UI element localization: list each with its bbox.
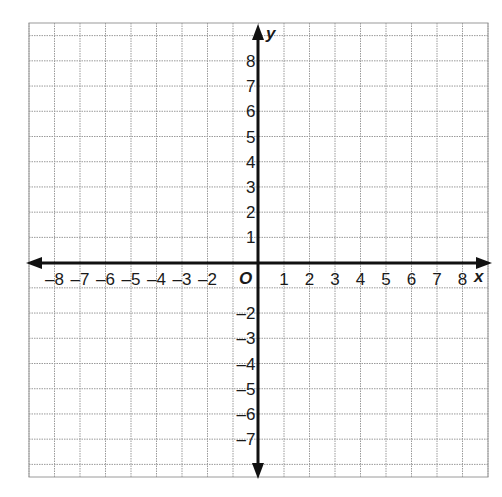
- y-tick-label: 8: [246, 52, 255, 71]
- x-tick-label: 4: [356, 270, 365, 289]
- x-tick-label: 7: [432, 270, 441, 289]
- x-tick-label: –4: [147, 270, 166, 289]
- tick-labels: –8–7–6–5–4–3–21234567887654321–2–3–4–5–6…: [45, 52, 467, 449]
- y-tick-label: –5: [237, 380, 256, 399]
- y-axis-up-arrow-icon: [252, 24, 264, 40]
- y-tick-label: 1: [246, 228, 255, 247]
- y-axis-label: y: [265, 24, 277, 43]
- x-tick-label: –6: [96, 270, 115, 289]
- x-tick-label: 1: [279, 270, 288, 289]
- axes: [26, 24, 492, 479]
- coordinate-plane: –8–7–6–5–4–3–21234567887654321–2–3–4–5–6…: [0, 0, 502, 497]
- x-tick-label: –5: [122, 270, 141, 289]
- y-tick-label: –2: [237, 304, 256, 323]
- x-axis-left-arrow-icon: [26, 257, 42, 269]
- x-axis-label: x: [473, 267, 485, 286]
- y-tick-label: 3: [246, 178, 255, 197]
- x-tick-label: –7: [71, 270, 90, 289]
- y-tick-label: 2: [246, 203, 255, 222]
- x-tick-label: 2: [305, 270, 314, 289]
- y-tick-label: –4: [237, 355, 256, 374]
- x-tick-label: –8: [45, 270, 64, 289]
- x-tick-label: 8: [458, 270, 467, 289]
- x-tick-label: 3: [330, 270, 339, 289]
- x-tick-label: –3: [173, 270, 192, 289]
- y-tick-label: –3: [237, 329, 256, 348]
- y-tick-label: 5: [246, 128, 255, 147]
- y-tick-label: 4: [246, 153, 255, 172]
- x-tick-label: 6: [407, 270, 416, 289]
- x-tick-label: 5: [381, 270, 390, 289]
- x-tick-label: –2: [198, 270, 217, 289]
- y-tick-label: –7: [237, 430, 256, 449]
- y-tick-label: –6: [237, 405, 256, 424]
- y-tick-label: 6: [246, 102, 255, 121]
- y-tick-label: 7: [246, 77, 255, 96]
- origin-label: O: [239, 269, 252, 288]
